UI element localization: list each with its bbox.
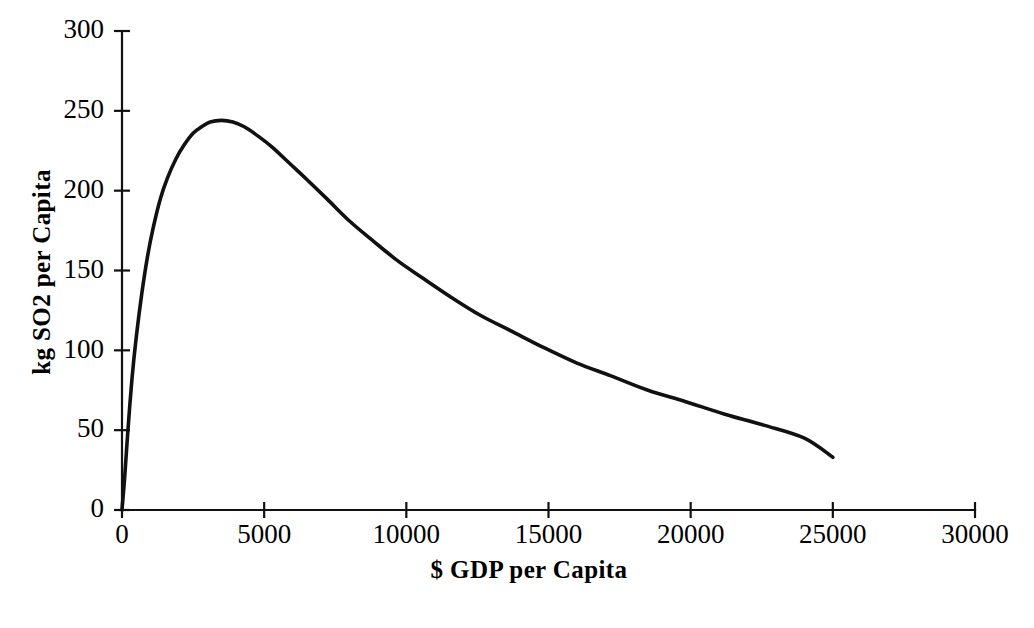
x-axis-title: $ GDP per Capita (431, 556, 628, 583)
y-tick-label: 150 (64, 254, 105, 284)
y-tick-label: 250 (64, 94, 105, 124)
chart-plot-area: 050100150200250300 050001000015000200002… (0, 0, 1034, 628)
y-axis-ticks: 050100150200250300 (64, 14, 131, 523)
x-tick-label: 0 (115, 519, 129, 549)
x-tick-label: 15000 (515, 519, 583, 549)
y-tick-label: 100 (64, 334, 105, 364)
x-tick-label: 20000 (657, 519, 725, 549)
x-tick-label: 25000 (799, 519, 867, 549)
x-tick-label: 5000 (237, 519, 291, 549)
y-tick-label: 200 (64, 174, 105, 204)
x-tick-label: 10000 (373, 519, 441, 549)
chart-figure: 050100150200250300 050001000015000200002… (0, 0, 1034, 628)
y-tick-label: 0 (91, 493, 105, 523)
data-series-line (122, 120, 833, 510)
x-tick-label: 30000 (941, 519, 1009, 549)
y-tick-label: 300 (64, 14, 105, 44)
y-axis-title: kg SO2 per Capita (28, 169, 55, 375)
y-tick-label: 50 (77, 413, 104, 443)
